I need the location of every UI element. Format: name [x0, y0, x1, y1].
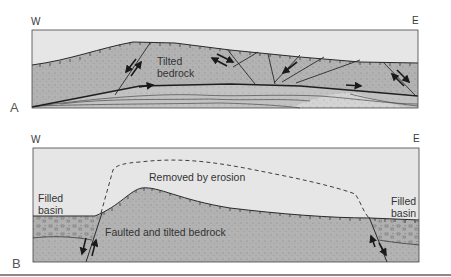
faulted-bedrock-label: Faulted and tilted bedrock [105, 226, 226, 238]
panel-a [32, 30, 418, 108]
filled-basin-west-line2: basin [38, 204, 63, 216]
panel-a-letter: A [10, 101, 19, 114]
filled-basin-east-line2: basin [391, 207, 416, 219]
panel-b-letter: B [12, 257, 21, 270]
filled-basin-west-label: Filled basin [38, 192, 63, 216]
bottom-divider [0, 274, 451, 276]
tilted-bedrock-label: Tilted bedrock [157, 55, 194, 79]
panel-b-east-label: E [413, 134, 420, 144]
panel-b-west-label: W [31, 135, 40, 145]
tilted-bedrock-label-line1: Tilted [157, 55, 194, 67]
panel-b [33, 148, 419, 262]
filled-basin-west-line1: Filled [38, 192, 63, 204]
tilted-bedrock-label-line2: bedrock [157, 67, 194, 79]
panel-a-west-label: W [31, 17, 40, 27]
filled-basin-east-label: Filled basin [391, 195, 416, 219]
filled-basin-east-line1: Filled [391, 195, 416, 207]
panel-b-west-filled-basin [33, 216, 100, 240]
panel-a-east-label: E [412, 16, 419, 26]
removed-by-erosion-label: Removed by erosion [149, 171, 245, 183]
